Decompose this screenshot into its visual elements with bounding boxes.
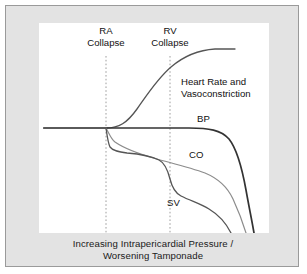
curve-co — [44, 128, 246, 233]
curve-label-co: CO — [189, 149, 203, 160]
curve-label-bp: BP — [197, 113, 210, 124]
ra-collapse-label-line2: Collapse — [87, 37, 124, 48]
curve-sv — [44, 128, 231, 233]
curve-bp — [44, 128, 254, 233]
rv-collapse-label-line2: Collapse — [151, 37, 188, 48]
x-axis-caption-line2: Worsening Tamponade — [16, 250, 290, 262]
figure-frame: RA Collapse RV Collapse Heart Rate and V… — [5, 5, 299, 267]
x-axis-caption: Increasing Intrapericardial Pressure / W… — [16, 238, 290, 262]
ra-collapse-label-line1: RA — [99, 25, 113, 36]
plot-area: RA Collapse RV Collapse Heart Rate and V… — [39, 23, 269, 233]
curve-label-sv: SV — [167, 197, 180, 208]
physiology-curves-chart: RA Collapse RV Collapse Heart Rate and V… — [39, 23, 269, 233]
curve-label-heart-rate-line2: Vasoconstriction — [181, 88, 251, 99]
curve-label-heart-rate-line1: Heart Rate and — [181, 76, 246, 87]
x-axis-caption-line1: Increasing Intrapericardial Pressure / — [16, 238, 290, 250]
rv-collapse-label-line1: RV — [163, 25, 177, 36]
